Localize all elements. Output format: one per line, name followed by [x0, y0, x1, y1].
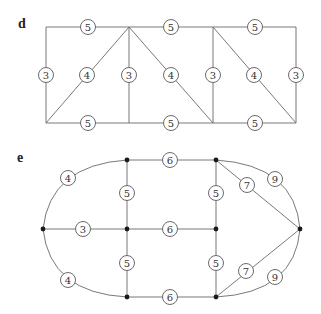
edge-weight-badge: 5 [248, 116, 263, 131]
weight-value: 5 [213, 188, 219, 199]
edge-weight-badge: 6 [163, 153, 178, 168]
weight-value: 9 [272, 272, 278, 283]
weight-value: 5 [213, 258, 219, 269]
weight-value: 5 [85, 118, 91, 129]
edge-weight-badge: 5 [209, 256, 224, 271]
panel-label-d: d [18, 16, 26, 31]
weight-value: 3 [210, 70, 216, 81]
weight-value: 4 [251, 70, 257, 81]
weighted-graph-figure: 555343434355544366655557799 de [0, 0, 321, 314]
edge-weight-badge: 3 [39, 68, 54, 83]
edge-weight-badge: 5 [81, 20, 96, 35]
graph-vertex [214, 227, 219, 232]
graph-vertex [125, 295, 130, 300]
graph-vertex [41, 227, 46, 232]
edge-weight-badge: 7 [239, 264, 254, 279]
weight-value: 4 [65, 173, 71, 184]
edge-weight-badge: 5 [209, 186, 224, 201]
edge-weight-badge: 5 [164, 20, 179, 35]
weight-value: 9 [272, 174, 278, 185]
graph-edge [43, 229, 127, 297]
panel-letters-layer: de [17, 16, 26, 165]
weight-value: 3 [43, 70, 49, 81]
edge-weight-badge: 5 [81, 116, 96, 131]
weight-value: 5 [168, 118, 174, 129]
edge-weight-badge: 4 [164, 68, 179, 83]
edge-weight-badge: 4 [247, 68, 262, 83]
weight-value: 4 [168, 70, 174, 81]
weight-value: 3 [126, 70, 132, 81]
graph-vertex [298, 227, 303, 232]
weight-value: 4 [84, 70, 90, 81]
edge-weight-badge: 5 [120, 186, 135, 201]
weight-value: 5 [85, 22, 91, 33]
weight-value: 6 [167, 224, 173, 235]
edge-weight-badge: 9 [268, 270, 283, 285]
weight-value: 6 [167, 292, 173, 303]
panel-label-e: e [17, 150, 23, 165]
graph-vertex [214, 295, 219, 300]
weight-value: 6 [167, 155, 173, 166]
graph-edge [216, 229, 300, 297]
graph-vertex [125, 227, 130, 232]
edge-weight-badge: 4 [61, 171, 76, 186]
edge-weight-badge: 5 [248, 20, 263, 35]
weight-value: 3 [293, 70, 299, 81]
edge-weight-badge: 5 [164, 116, 179, 131]
edge-weight-badge: 4 [61, 273, 76, 288]
weight-value: 5 [252, 118, 258, 129]
edge-weight-badge: 3 [206, 68, 221, 83]
edge-weight-badge: 3 [289, 68, 304, 83]
weight-value: 5 [252, 22, 258, 33]
weight-value: 5 [124, 258, 130, 269]
weight-value: 5 [124, 188, 130, 199]
edge-weight-badge: 6 [163, 290, 178, 305]
edge-weight-badge: 3 [76, 222, 91, 237]
edge-weights-layer: 555343434355544366655557799 [39, 20, 304, 305]
weight-value: 4 [65, 275, 71, 286]
graph-vertex [214, 158, 219, 163]
weight-value: 3 [80, 224, 86, 235]
weight-value: 7 [243, 266, 249, 277]
edge-weight-badge: 5 [120, 256, 135, 271]
edge-weight-badge: 4 [80, 68, 95, 83]
edge-weight-badge: 3 [122, 68, 137, 83]
graph-vertex [125, 158, 130, 163]
edge-weight-badge: 7 [240, 178, 255, 193]
weight-value: 7 [244, 180, 250, 191]
graph-edge [216, 160, 300, 229]
edge-weight-badge: 9 [268, 172, 283, 187]
weight-value: 5 [168, 22, 174, 33]
edge-weight-badge: 6 [163, 222, 178, 237]
graph-edge [43, 160, 127, 229]
